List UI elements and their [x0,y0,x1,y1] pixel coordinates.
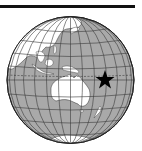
globe-map [0,0,142,150]
globe [7,17,134,151]
borneo [45,59,53,66]
philippines [54,46,57,54]
